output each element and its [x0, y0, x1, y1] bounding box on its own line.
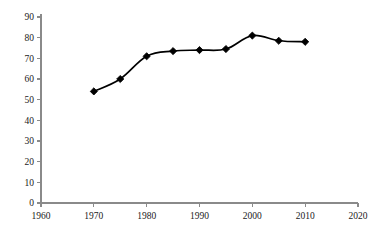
- y-axis-tick-label: 40: [25, 116, 35, 126]
- x-axis-tick-label: 1990: [190, 211, 209, 221]
- y-axis-tick-label: 60: [25, 74, 35, 84]
- x-axis-group: 1960197019801990200020102020: [32, 203, 368, 221]
- series-group: [90, 32, 309, 95]
- y-axis-tick-label: 20: [25, 157, 35, 167]
- data-point-marker: [302, 38, 309, 45]
- y-axis-tick-label: 70: [25, 54, 35, 64]
- data-point-marker: [249, 32, 256, 39]
- data-point-marker: [222, 45, 229, 52]
- y-axis-tick-label: 10: [25, 178, 35, 188]
- data-point-marker: [90, 88, 97, 95]
- series-line: [94, 35, 305, 91]
- y-axis-tick-label: 80: [25, 33, 35, 43]
- x-axis-tick-label: 2020: [349, 211, 368, 221]
- y-axis-group: 0102030405060708090: [25, 12, 42, 208]
- data-point-marker: [196, 46, 203, 53]
- y-axis-tick-label: 90: [25, 12, 35, 22]
- x-axis-tick-label: 1970: [84, 211, 103, 221]
- x-axis-tick-label: 2010: [296, 211, 315, 221]
- x-axis-tick-label: 2000: [243, 211, 262, 221]
- y-axis-tick-label: 30: [25, 136, 35, 146]
- y-axis-tick-label: 50: [25, 95, 35, 105]
- line-chart: 0102030405060708090 19601970198019902000…: [0, 0, 386, 235]
- data-point-marker: [169, 48, 176, 55]
- x-axis-tick-label: 1960: [32, 211, 51, 221]
- x-axis-tick-label: 1980: [137, 211, 156, 221]
- y-axis-tick-label: 0: [29, 198, 34, 208]
- data-point-marker: [275, 37, 282, 44]
- chart-plot-area: 0102030405060708090 19601970198019902000…: [0, 0, 386, 235]
